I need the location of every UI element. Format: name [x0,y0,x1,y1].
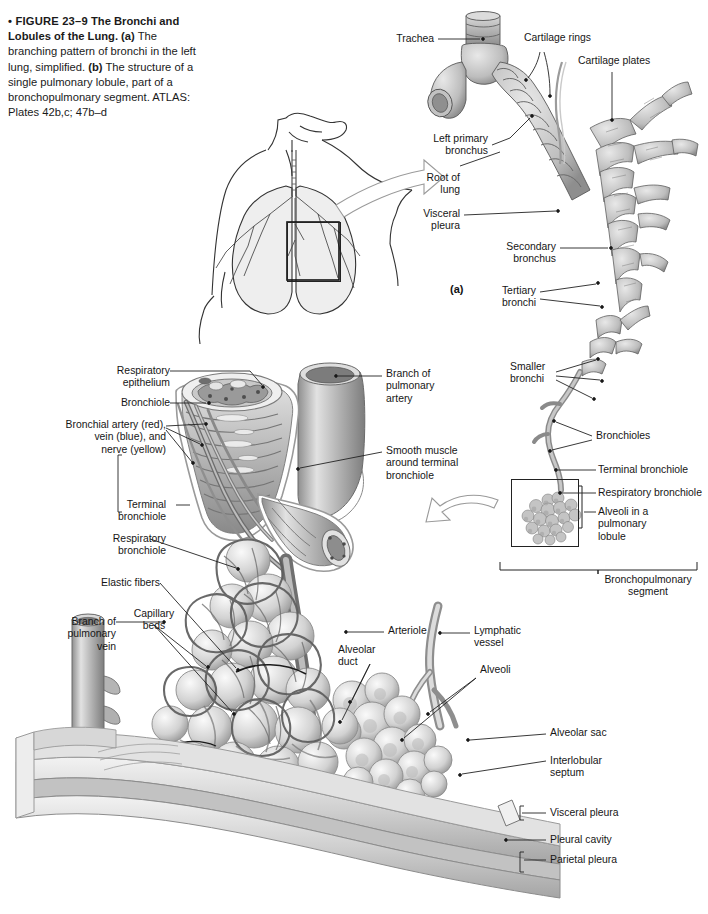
label-cartilage-rings: Cartilage rings [524,32,644,44]
label-root-of-lung: Root of lung [372,172,460,197]
label-cartilage-plates: Cartilage plates [578,55,698,67]
inset-alveoli-box [511,479,579,547]
pulmonary-artery-branch-art [298,363,365,525]
label-bronchial-vessels: Bronchial artery (red), vein (blue), and… [20,419,166,456]
panel-a-marker: (a) [450,283,463,295]
label-lymphatic-vessel: Lymphatic vessel [474,625,564,650]
label-left-primary-bronchus: Left primary bronchus [360,133,488,158]
label-respiratory-epithelium: Respiratory epithelium [48,365,170,390]
label-terminal-bronchiole: Terminal bronchiole [48,499,166,524]
label-alveoli: Alveoli [480,664,552,676]
label-branch-pulmonary-artery: Branch of pulmonary artery [386,368,496,405]
label-bronchioles: Bronchioles [596,430,696,442]
cartilage-plates-art [590,82,698,312]
label-alveolar-duct: Alveolar duct [338,644,418,669]
label-smaller-bronchi: Smaller bronchi [510,361,580,386]
label-parietal-pleura: Parietal pleura [550,854,680,866]
label-smooth-muscle: Smooth muscle around terminal bronchiole [386,445,514,482]
torso-highlight-box [287,222,341,282]
label-secondary-bronchus: Secondary bronchus [438,241,556,266]
label-alveolar-sac: Alveolar sac [550,727,670,739]
arrow-inset-to-lobule [426,495,498,522]
label-respiratory-bronchiole: Respiratory bronchiole [48,533,166,558]
torso-inset-drawing [108,0,412,344]
label-interlobular-septum: Interlobular septum [550,755,670,780]
label-terminal-bronchiole-inset: Terminal bronchiole [598,464,708,476]
label-visceral-pleura-b: Visceral pleura [550,807,680,819]
bronchopulmonary-brace [500,562,697,574]
label-respiratory-bronchiole-inset: Respiratory bronchiole [598,487,708,499]
label-elastic-fibers: Elastic fibers [48,577,160,589]
label-bronchopulmonary-segment: Bronchopulmonary segment [548,574,708,599]
label-arteriole: Arteriole [388,625,468,637]
label-visceral-pleura-a: Visceral pleura [372,208,460,233]
label-bronchiole: Bronchiole [68,397,170,409]
figure-page: • FIGURE 23–9 The Bronchi and Lobules of… [0,0,708,914]
trachea-art [466,12,500,48]
label-tertiary-bronchi: Tertiary bronchi [452,285,536,310]
label-alveoli-in-lobule: Alveoli in a pulmonary lobule [598,506,694,543]
label-branch-pulmonary-vein: Branch of pulmonary vein [10,616,116,653]
label-pleural-cavity: Pleural cavity [550,834,680,846]
label-capillary-beds: Capillary beds [108,608,200,633]
label-trachea: Trachea [330,33,434,45]
